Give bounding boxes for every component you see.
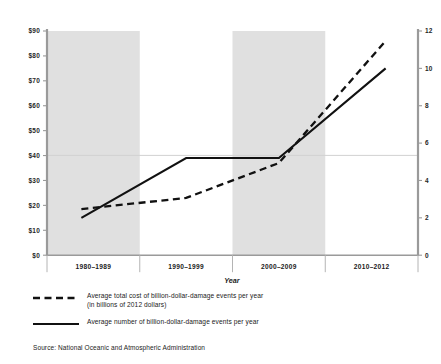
svg-text:6: 6: [425, 139, 429, 146]
svg-text:$90: $90: [29, 27, 41, 35]
svg-text:$80: $80: [29, 52, 41, 60]
svg-text:8: 8: [425, 102, 429, 109]
svg-text:2010–2012: 2010–2012: [354, 263, 390, 270]
svg-text:$20: $20: [29, 202, 41, 210]
svg-text:4: 4: [425, 177, 429, 184]
shaded-band-1980-1989: [47, 31, 140, 255]
x-axis-title: Year: [224, 276, 241, 285]
svg-text:12: 12: [425, 27, 433, 34]
svg-text:2000–2009: 2000–2009: [261, 263, 297, 270]
svg-text:$70: $70: [29, 77, 41, 85]
chart-plot-area: $0$10$20$30$40$50$60$70$80$90 024681012 …: [0, 0, 441, 292]
legend-label-events-line1: Average number of billion-dollar-damage …: [87, 318, 259, 325]
legend-swatch-solid: [33, 318, 79, 330]
svg-text:$40: $40: [29, 152, 41, 160]
legend-item-cost: Average total cost of billion-dollar-dam…: [0, 292, 441, 309]
svg-text:0: 0: [425, 252, 429, 259]
svg-text:$0: $0: [32, 252, 40, 260]
chart-container: $0$10$20$30$40$50$60$70$80$90 024681012 …: [0, 0, 441, 364]
svg-text:1990–1999: 1990–1999: [168, 263, 204, 270]
svg-text:2: 2: [425, 214, 429, 221]
left-axis-tick-labels: $0$10$20$30$40$50$60$70$80$90: [29, 27, 41, 259]
svg-text:$60: $60: [29, 102, 41, 110]
legend-item-events: Average number of billion-dollar-damage …: [0, 318, 441, 330]
svg-text:$50: $50: [29, 127, 41, 135]
legend-swatch-dashed: [33, 292, 79, 304]
legend-label-cost: Average total cost of billion-dollar-dam…: [79, 292, 263, 309]
source-note: Source: National Oceanic and Atmospheric…: [33, 344, 205, 351]
svg-text:$10: $10: [29, 227, 41, 235]
legend-label-events: Average number of billion-dollar-damage …: [79, 318, 259, 327]
legend-label-cost-line1: Average total cost of billion-dollar-dam…: [87, 292, 263, 299]
chart-legend: Average total cost of billion-dollar-dam…: [0, 292, 441, 332]
svg-text:$30: $30: [29, 177, 41, 185]
svg-text:1980–1989: 1980–1989: [76, 263, 112, 270]
svg-text:10: 10: [425, 65, 433, 72]
shaded-band-2000-2009: [233, 31, 326, 255]
shaded-bands: [47, 31, 325, 255]
legend-label-cost-line2: (in billions of 2012 dollars): [87, 301, 263, 310]
right-axis-tick-labels: 024681012: [425, 27, 433, 258]
